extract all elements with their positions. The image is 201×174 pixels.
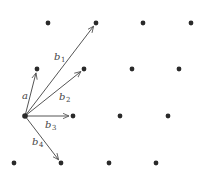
- lattice-point: [166, 114, 171, 119]
- lattice-point: [130, 67, 135, 72]
- vector-b4-arrow: [25, 116, 59, 160]
- vector-b2-arrow: [25, 72, 81, 117]
- lattice-point: [22, 113, 28, 119]
- lattice-point: [46, 21, 51, 26]
- lattice-point: [71, 114, 76, 119]
- lattice-point: [59, 161, 64, 166]
- lattice-point: [189, 21, 194, 26]
- lattice-point: [177, 67, 182, 72]
- label-b2: b2: [59, 91, 70, 104]
- lattice-point: [12, 161, 17, 166]
- lattice-point: [154, 161, 159, 166]
- label-a: a: [22, 90, 28, 101]
- label-b1: b1: [54, 51, 65, 64]
- lattice-point: [94, 21, 99, 26]
- lattice-point: [107, 161, 112, 166]
- label-b3: b3: [45, 119, 56, 132]
- lattice-point: [141, 21, 146, 26]
- lattice-point: [35, 67, 40, 72]
- lattice-diagram: ab1b2b3b4: [0, 0, 201, 174]
- lattice-point: [118, 114, 123, 119]
- lattice-point: [82, 67, 87, 72]
